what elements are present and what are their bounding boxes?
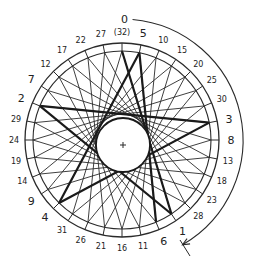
tick-mark [32,103,39,106]
point-label: 27 [96,30,106,39]
point-label: 11 [138,242,148,251]
point-label: 4 [41,211,48,224]
tick-mark [53,71,59,77]
tick-mark [68,59,72,66]
tick-mark [27,121,35,123]
tick-mark [139,227,141,235]
tick-mark [103,227,105,235]
point-label: 7 [28,73,35,86]
point-label: 17 [57,46,67,55]
point-label: 15 [177,46,187,55]
point-label: 14 [17,177,27,186]
star-polygon-diagram: (32)510152025303813182328161116212631491… [0,0,256,272]
point-label: 2 [18,92,25,105]
center-hub [96,118,150,172]
tick-mark [196,86,203,90]
point-label: 9 [28,195,35,208]
start-label: 0 [121,13,128,26]
point-label: (32) [114,28,130,37]
tick-mark [32,174,39,177]
point-label: 18 [217,177,227,186]
point-label: 16 [117,244,127,253]
point-label: 6 [160,235,167,248]
point-label: 3 [225,113,232,126]
tick-mark [85,50,88,57]
tick-mark [209,157,217,159]
arrowhead-icon [183,239,191,245]
tick-mark [85,222,88,229]
tick-mark [156,222,159,229]
tick-mark [209,121,217,123]
point-label: 25 [207,76,217,85]
point-label: 13 [223,157,233,166]
point-label: 12 [41,60,51,69]
point-label: 21 [96,242,106,251]
point-label: 5 [140,27,147,40]
point-label: 8 [228,134,235,147]
point-label: 23 [207,196,217,205]
point-label: 30 [217,95,227,104]
tick-mark [53,203,59,209]
tick-mark [171,59,175,66]
tick-mark [139,45,141,53]
point-label: 19 [11,157,21,166]
tick-mark [204,103,211,106]
point-label: 10 [158,36,168,45]
tick-mark [41,189,48,193]
point-label: 1 [179,225,186,238]
tick-mark [204,174,211,177]
point-label: 22 [76,36,86,45]
tick-mark [196,189,203,193]
tick-mark [156,50,159,57]
point-label: 29 [11,115,21,124]
tick-mark [185,71,191,77]
diagram-canvas: (32)510152025303813182328161116212631491… [0,0,256,272]
point-label: 24 [9,136,19,145]
point-label: 20 [193,60,203,69]
tick-mark [171,214,175,221]
tick-mark [27,157,35,159]
point-label: 28 [193,212,203,221]
tick-mark [41,86,48,90]
point-label: 31 [57,226,67,235]
point-label: 26 [76,236,86,245]
pointer-tick [180,240,190,256]
tick-mark [68,214,72,221]
tick-mark [185,203,191,209]
tick-mark [103,45,105,53]
